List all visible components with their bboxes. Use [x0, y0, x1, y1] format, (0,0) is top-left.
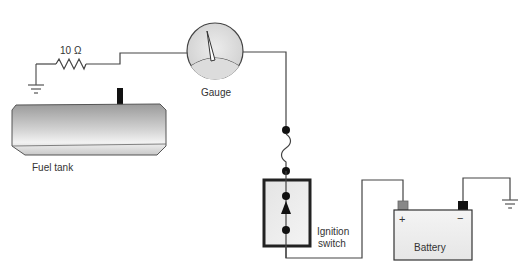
ignition-switch-label-line1: Ignition — [317, 226, 349, 238]
battery-negative-label: − — [457, 212, 463, 224]
fuel-tank-label: Fuel tank — [32, 162, 73, 174]
fuse — [282, 126, 291, 175]
battery-label: Battery — [414, 242, 446, 254]
battery-terminal-positive — [398, 201, 408, 210]
circuit-diagram — [0, 0, 529, 271]
battery-positive-label: + — [399, 213, 405, 225]
ignition-switch — [264, 171, 310, 258]
wire-resistor-gauge — [36, 53, 188, 69]
ground-symbol-right — [502, 200, 518, 208]
ignition-switch-label-line2: switch — [318, 238, 346, 250]
resistor-label: 10 Ω — [60, 45, 81, 57]
ground-symbol-left — [28, 64, 44, 93]
wire-battery-ground — [463, 178, 510, 201]
resistor-zigzag — [56, 59, 86, 69]
gauge-label: Gauge — [201, 87, 231, 99]
fuel-tank-sender — [117, 88, 123, 105]
wire-gauge-fuse — [243, 52, 286, 130]
battery-terminal-negative — [458, 201, 468, 210]
fuel-tank — [12, 104, 166, 155]
gauge — [187, 23, 243, 80]
